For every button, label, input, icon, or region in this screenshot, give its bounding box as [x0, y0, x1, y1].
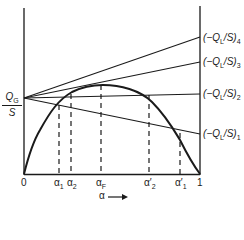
label-line-2: (−QL/S)2	[203, 89, 241, 101]
tick-1: 1	[197, 178, 203, 188]
arrow-right-icon	[122, 194, 128, 200]
tick-alpha2-prime: α′2	[144, 178, 156, 190]
tick-alpha2: α2	[67, 178, 77, 190]
tick-0: 0	[21, 178, 27, 188]
label-line-1: (−QL/S)1	[203, 129, 241, 141]
tick-alpha1-prime: α′1	[175, 178, 187, 190]
tick-alpha1: α1	[54, 178, 64, 190]
x-axis-label: α	[99, 191, 105, 201]
y-axis-label: QG S	[2, 91, 22, 118]
generation-curve	[24, 85, 200, 174]
tick-alphaF: αF	[96, 178, 106, 190]
label-line-4: (−QL/S)4	[203, 33, 241, 45]
line-2	[24, 94, 200, 98]
label-line-3: (−QL/S)3	[203, 57, 241, 69]
